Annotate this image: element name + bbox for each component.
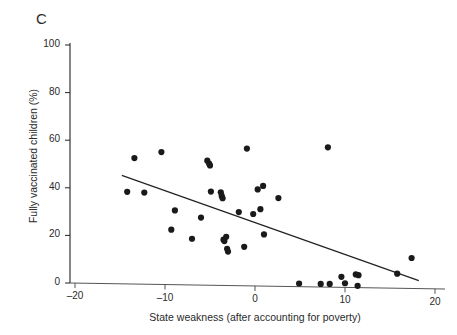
data-point xyxy=(236,209,242,215)
data-point xyxy=(189,236,195,242)
data-point xyxy=(260,183,266,189)
x-tick-label: 20 xyxy=(415,296,455,307)
data-point xyxy=(141,189,147,195)
y-tick-label: 0 xyxy=(34,276,60,287)
x-tick-label: 0 xyxy=(235,293,275,304)
data-point xyxy=(257,206,263,212)
data-point xyxy=(338,274,344,280)
y-tick-label: 80 xyxy=(34,86,60,97)
data-point xyxy=(172,207,178,213)
data-point xyxy=(261,231,267,237)
data-point xyxy=(394,271,400,277)
data-point xyxy=(124,189,130,195)
panel-label: C xyxy=(36,10,47,27)
data-point xyxy=(318,281,324,287)
data-point xyxy=(275,195,281,201)
data-point xyxy=(208,189,214,195)
x-tick-label: 10 xyxy=(325,294,365,305)
data-point xyxy=(255,186,261,192)
regression-line-group xyxy=(122,175,419,280)
axes-group xyxy=(65,43,445,294)
data-points-group xyxy=(124,144,415,289)
figure-panel-c: C Fully vaccinated children (%) State we… xyxy=(0,0,457,335)
data-point xyxy=(409,255,415,261)
scatter-plot-canvas xyxy=(0,0,457,335)
data-point xyxy=(220,195,226,201)
regression-line xyxy=(122,175,419,280)
data-point xyxy=(223,234,229,240)
y-tick-label: 20 xyxy=(34,228,60,239)
x-tick-label: –20 xyxy=(55,290,95,301)
data-point xyxy=(327,281,333,287)
data-point xyxy=(244,145,250,151)
data-point xyxy=(207,162,213,168)
y-tick-label: 60 xyxy=(34,133,60,144)
x-axis-line xyxy=(70,283,445,289)
x-tick-label: –10 xyxy=(145,292,185,303)
data-point xyxy=(131,155,137,161)
data-point xyxy=(342,280,348,286)
y-tick-label: 40 xyxy=(34,181,60,192)
x-axis-title: State weakness (after accounting for pov… xyxy=(70,311,440,323)
data-point xyxy=(325,144,331,150)
data-point xyxy=(198,214,204,220)
y-tick-label: 100 xyxy=(34,38,60,49)
data-point xyxy=(250,211,256,217)
data-point xyxy=(355,283,361,289)
data-point xyxy=(296,280,302,286)
data-point xyxy=(168,227,174,233)
data-point xyxy=(355,272,361,278)
data-point xyxy=(241,244,247,250)
data-point xyxy=(158,149,164,155)
data-point xyxy=(225,248,231,254)
